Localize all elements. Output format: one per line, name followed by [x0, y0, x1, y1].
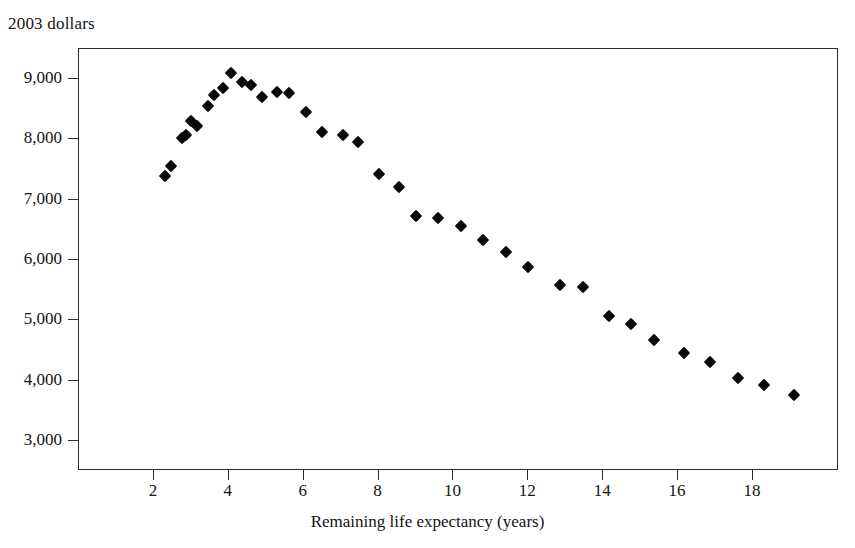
data-point — [432, 211, 445, 224]
y-axis-tick-mark — [68, 138, 78, 139]
data-point — [217, 81, 230, 94]
scatter-plot-figure: 2003 dollars 3,0004,0005,0006,0007,0008,… — [0, 0, 855, 548]
x-axis-tick-mark — [452, 470, 453, 480]
x-axis-tick-label: 12 — [519, 481, 536, 501]
data-point — [256, 91, 269, 104]
data-point — [352, 135, 365, 148]
y-axis-tick-label: 6,000 — [24, 249, 62, 269]
data-point — [372, 167, 385, 180]
y-axis-tick-label: 5,000 — [24, 309, 62, 329]
data-point — [758, 378, 771, 391]
y-axis-tick-label: 7,000 — [24, 189, 62, 209]
y-axis-tick-label: 4,000 — [24, 370, 62, 390]
data-point — [410, 210, 423, 223]
data-point — [677, 346, 690, 359]
x-axis-tick-mark — [752, 470, 753, 480]
data-point — [202, 99, 215, 112]
plot-frame — [78, 48, 838, 470]
data-point — [224, 66, 237, 79]
y-axis-tick-mark — [68, 78, 78, 79]
data-point — [703, 356, 716, 369]
y-axis-tick-mark — [68, 319, 78, 320]
y-axis-caption: 2003 dollars — [8, 14, 95, 34]
x-axis-tick-mark — [527, 470, 528, 480]
x-axis-tick-label: 4 — [224, 481, 233, 501]
data-point — [207, 89, 220, 102]
data-points-layer — [79, 49, 837, 469]
x-axis-tick-mark — [303, 470, 304, 480]
y-axis-tick-label: 9,000 — [24, 68, 62, 88]
data-point — [282, 87, 295, 100]
y-axis-tick-mark — [68, 259, 78, 260]
x-axis-tick-label: 8 — [373, 481, 382, 501]
x-axis-tick-mark — [228, 470, 229, 480]
data-point — [454, 219, 467, 232]
y-axis-tick-label: 8,000 — [24, 128, 62, 148]
data-point — [299, 106, 312, 119]
x-axis-tick-label: 10 — [444, 481, 461, 501]
x-axis-tick-label: 6 — [298, 481, 307, 501]
data-point — [788, 389, 801, 402]
data-point — [477, 233, 490, 246]
x-axis-tick-mark — [602, 470, 603, 480]
x-axis-tick-label: 14 — [594, 481, 611, 501]
data-point — [554, 279, 567, 292]
y-axis-tick-mark — [68, 199, 78, 200]
x-axis-tick-mark — [153, 470, 154, 480]
data-point — [337, 128, 350, 141]
x-axis-tick-label: 16 — [669, 481, 686, 501]
data-point — [647, 333, 660, 346]
y-axis-tick-label: 3,000 — [24, 430, 62, 450]
data-point — [625, 318, 638, 331]
data-point — [316, 126, 329, 139]
x-axis-tick-label: 18 — [743, 481, 760, 501]
data-point — [499, 246, 512, 259]
x-axis-caption: Remaining life expectancy (years) — [0, 512, 855, 532]
x-axis-tick-mark — [378, 470, 379, 480]
y-axis-tick-mark — [68, 380, 78, 381]
x-axis-tick-label: 2 — [149, 481, 158, 501]
data-point — [576, 281, 589, 294]
y-axis-tick-mark — [68, 440, 78, 441]
x-axis-tick-mark — [677, 470, 678, 480]
data-point — [522, 261, 535, 274]
data-point — [602, 310, 615, 323]
data-point — [732, 371, 745, 384]
data-point — [393, 181, 406, 194]
